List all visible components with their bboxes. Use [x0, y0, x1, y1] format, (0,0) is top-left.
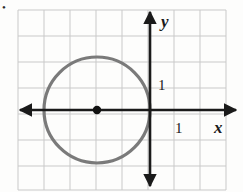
problem-marker: •: [2, 1, 6, 13]
coordinate-plane-graph: y x 1 1 •: [0, 0, 243, 192]
y-axis-label: y: [159, 12, 169, 31]
x-axis-tick-label-1: 1: [175, 120, 183, 136]
x-axis-label: x: [213, 118, 223, 137]
circle-center-point: [93, 106, 101, 114]
grid-lines: [18, 10, 226, 190]
y-axis-tick-label-1: 1: [158, 77, 166, 93]
figure-root: y x 1 1 •: [0, 0, 243, 192]
